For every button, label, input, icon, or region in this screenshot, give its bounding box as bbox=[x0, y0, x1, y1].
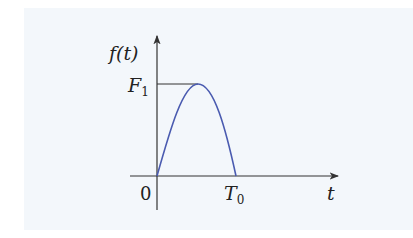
y-axis-label: f(t) bbox=[107, 42, 139, 64]
end-time-label: T0 bbox=[224, 182, 244, 207]
pulse-curve bbox=[157, 84, 236, 176]
x-axis-label: t bbox=[327, 182, 335, 204]
origin-label: 0 bbox=[140, 183, 151, 204]
pulse-diagram: f(t) F1 0 T0 t bbox=[0, 0, 413, 238]
peak-label: F1 bbox=[127, 74, 149, 99]
